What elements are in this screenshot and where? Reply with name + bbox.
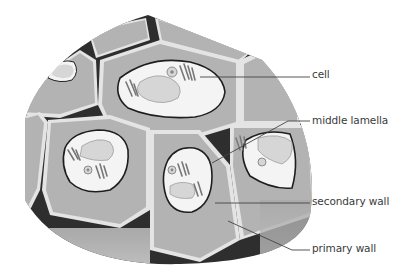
plant-tissue-diagram bbox=[0, 0, 402, 273]
tissue-base-right bbox=[260, 200, 340, 273]
label-cell: cell bbox=[312, 68, 330, 80]
tissue-base-left bbox=[0, 228, 150, 273]
cell-top-left bbox=[20, 50, 98, 118]
label-secondary-wall: secondary wall bbox=[312, 195, 389, 207]
tissue-block bbox=[0, 0, 402, 273]
cell-lower-left bbox=[42, 115, 150, 228]
cell-right-top bbox=[240, 50, 300, 125]
label-middle-lamella: middle lamella bbox=[312, 114, 388, 126]
label-primary-wall: primary wall bbox=[312, 242, 376, 254]
